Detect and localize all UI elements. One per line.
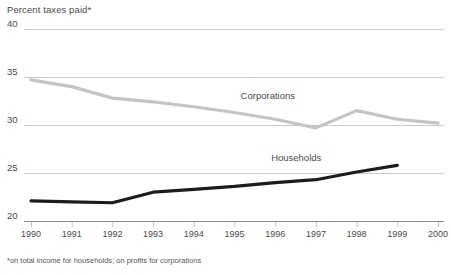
x-tick-label: 1992: [102, 229, 122, 239]
x-tick-label: 1998: [347, 229, 367, 239]
x-tick-label: 2000: [428, 229, 448, 239]
series-label-corporations: Corporations: [241, 90, 295, 101]
y-tick-label: 20: [7, 210, 18, 221]
x-tick-label: 1990: [21, 229, 41, 239]
series-line-households: [31, 165, 397, 202]
y-tick-label: 35: [7, 66, 18, 77]
x-tick-label: 1994: [184, 229, 204, 239]
x-tick-label: 1995: [224, 229, 244, 239]
chart-container: Percent taxes paid* 2025303540 199019911…: [0, 0, 451, 275]
series-label-households: Households: [271, 152, 321, 163]
x-tick-label: 1996: [265, 229, 285, 239]
chart-footnote: *on total income for households; on prof…: [7, 256, 201, 265]
y-tick-label: 30: [7, 114, 18, 125]
x-tick-label: 1999: [387, 229, 407, 239]
y-tick-label: 40: [7, 18, 18, 29]
x-tick-label: 1997: [306, 229, 326, 239]
y-tick-label: 25: [7, 162, 18, 173]
x-tick-label: 1991: [62, 229, 82, 239]
series-line-corporations: [31, 80, 438, 128]
x-tick-label: 1993: [143, 229, 163, 239]
